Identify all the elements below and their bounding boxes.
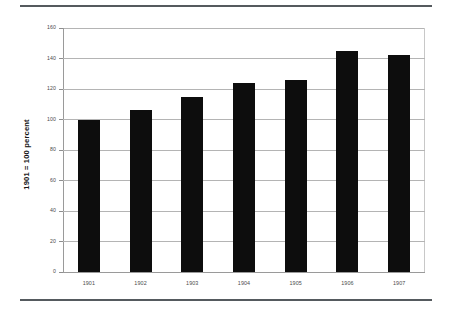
chart-page: 020406080100120140160 190119021903190419… bbox=[0, 0, 452, 312]
x-tick-label: 1906 bbox=[321, 280, 373, 286]
y-tick-mark bbox=[59, 272, 63, 273]
y-tick-mark bbox=[59, 89, 63, 90]
bar bbox=[388, 55, 410, 272]
y-tick-mark bbox=[59, 241, 63, 242]
y-tick-mark bbox=[59, 211, 63, 212]
gridline bbox=[63, 58, 425, 59]
bar bbox=[336, 51, 358, 272]
y-tick-mark bbox=[59, 180, 63, 181]
y-tick-label: 160 bbox=[47, 25, 56, 30]
bar bbox=[285, 80, 307, 272]
x-tick-label: 1902 bbox=[115, 280, 167, 286]
x-tick-label: 1904 bbox=[218, 280, 270, 286]
y-tick-label: 140 bbox=[47, 56, 56, 61]
y-tick-mark bbox=[59, 28, 63, 29]
x-tick-label: 1901 bbox=[63, 280, 115, 286]
y-tick-label: 60 bbox=[50, 178, 56, 183]
y-tick-label: 80 bbox=[50, 147, 56, 152]
y-axis-title: 1901 = 100 percent bbox=[22, 95, 31, 215]
x-tick-label: 1907 bbox=[373, 280, 425, 286]
x-axis-line bbox=[63, 272, 425, 273]
bar bbox=[181, 97, 203, 272]
plot-top-border bbox=[63, 28, 425, 29]
y-tick-mark bbox=[59, 119, 63, 120]
x-tick-label: 1905 bbox=[270, 280, 322, 286]
bar bbox=[233, 83, 255, 272]
bar bbox=[78, 120, 100, 273]
y-tick-label: 100 bbox=[47, 117, 56, 122]
y-tick-label: 20 bbox=[50, 239, 56, 244]
y-tick-mark bbox=[59, 58, 63, 59]
bar-chart: 020406080100120140160 190119021903190419… bbox=[0, 0, 452, 312]
y-tick-label: 120 bbox=[47, 86, 56, 91]
bar bbox=[130, 110, 152, 272]
y-tick-label: 40 bbox=[50, 208, 56, 213]
x-tick-label: 1903 bbox=[166, 280, 218, 286]
y-tick-label: 0 bbox=[53, 269, 56, 274]
y-tick-mark bbox=[59, 150, 63, 151]
